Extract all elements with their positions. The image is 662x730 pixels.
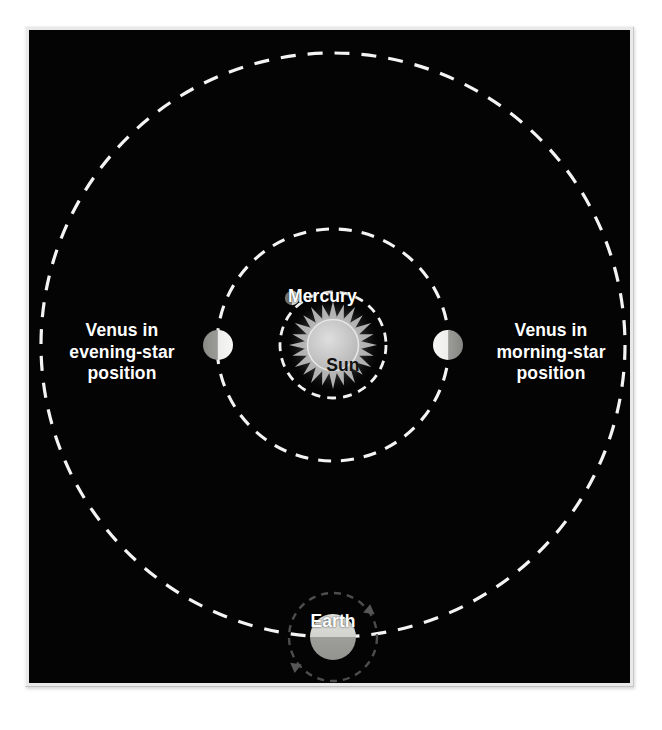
- mercury-body: [285, 291, 299, 305]
- sun-body: [308, 320, 359, 371]
- moon-orbit-arrow-top: [363, 604, 378, 619]
- figure-root: Venus in evening-star position Venus in …: [0, 0, 662, 730]
- venus-morning-body: [433, 330, 463, 360]
- venus-evening-body: [203, 330, 233, 360]
- earth-body: [310, 614, 356, 660]
- moon-orbit-arrow-bottom: [287, 658, 302, 673]
- sky-panel: Venus in evening-star position Venus in …: [29, 30, 630, 683]
- orbit-diagram: [29, 30, 630, 683]
